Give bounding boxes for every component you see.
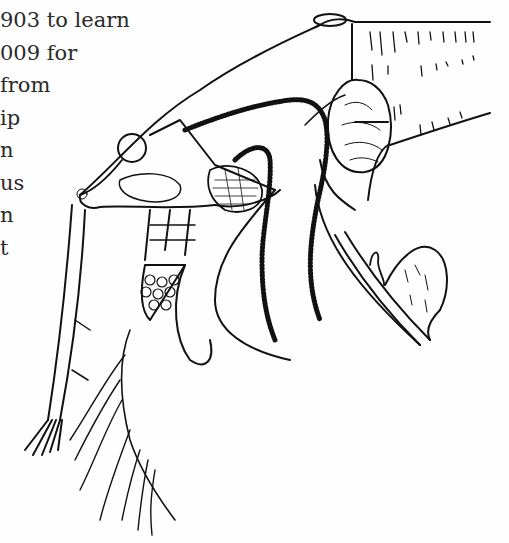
segmented-tube <box>185 100 327 320</box>
antenna <box>48 205 85 420</box>
book-page: 903 to learn 009 for from ip n us n t <box>0 0 509 543</box>
crustacean-illustration <box>0 0 509 543</box>
carapace-outline <box>80 19 490 195</box>
organ-oval <box>328 80 391 172</box>
compound-eye <box>118 134 146 162</box>
